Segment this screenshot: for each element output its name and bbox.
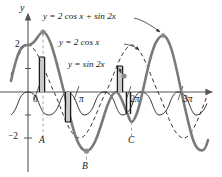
- point-label-B: B: [82, 162, 88, 172]
- x-tick-label-0: 0: [33, 95, 38, 104]
- plot-svg: [0, 0, 222, 177]
- marker-point-A: [40, 29, 45, 34]
- marker-point-B: [84, 148, 89, 153]
- measure-shade-b: [66, 92, 70, 122]
- curve-label-cos: y = 2 cos x: [59, 38, 99, 47]
- y-tick-label-neg2: −2: [8, 132, 18, 141]
- point-leader-lines: [43, 34, 132, 163]
- x-tick-label-3pi: 3π: [183, 95, 192, 104]
- point-label-C: C: [128, 136, 134, 146]
- measure-bars-A: [40, 57, 45, 92]
- pointer-sum-label: [134, 18, 160, 32]
- point-label-A: A: [39, 136, 45, 146]
- curve-label-sum: y = 2 cos x + sin 2x: [43, 12, 116, 21]
- marker-point-C: [121, 73, 126, 78]
- x-tick-label-pi: π: [79, 95, 84, 104]
- x-tick-label-2pi: 2π: [130, 95, 139, 104]
- y-axis-label: y: [20, 3, 24, 13]
- measure-bars-B: [66, 92, 71, 122]
- y-tick-label-2: 2: [15, 40, 20, 49]
- curve-label-sin2x: y = sin 2x: [68, 60, 105, 69]
- figure-canvas: y y = 2 cos x + sin 2x y = 2 cos x y = s…: [0, 0, 222, 177]
- marker-point-peak: [161, 33, 165, 37]
- measure-shade-a: [40, 57, 44, 92]
